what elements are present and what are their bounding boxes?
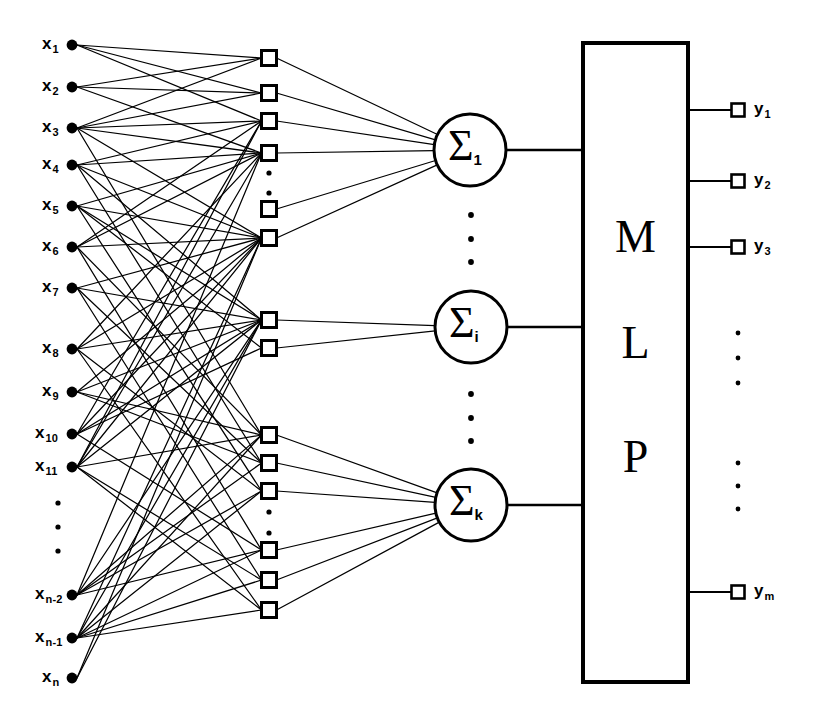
input-node-x11[interactable]	[67, 462, 78, 473]
hidden-node-7[interactable]	[262, 313, 277, 328]
hidden-node-13[interactable]	[262, 573, 277, 588]
connection-line	[77, 121, 262, 434]
input-node-x3[interactable]	[67, 123, 78, 134]
connection-line	[277, 435, 438, 493]
input-label-x2: x2	[42, 77, 59, 97]
mlp-letter-p: P	[606, 434, 666, 480]
connection-line	[77, 491, 262, 638]
summation-label-1: Σ1	[448, 124, 482, 168]
neural-network-diagram: x1x2x3x4x5x6x7x8x9x10x11xn-2xn-1xnΣ1ΣiΣk…	[0, 0, 823, 723]
summation-label-k: Σk	[449, 479, 483, 523]
output-node-ym[interactable]	[732, 586, 745, 599]
connection-line	[77, 320, 262, 434]
hidden-node-5[interactable]	[262, 202, 277, 217]
connection-line	[77, 206, 262, 491]
input-label-x6-subscript: 6	[51, 245, 58, 257]
input-node-xn[interactable]	[67, 673, 78, 684]
summation-ellipsis-dot	[468, 438, 474, 444]
connection-line	[77, 320, 262, 638]
hidden-ellipsis-dot	[266, 509, 271, 514]
network-graphics	[0, 0, 823, 723]
connection-line	[277, 518, 438, 580]
connection-line	[277, 522, 440, 610]
input-node-x2[interactable]	[67, 82, 78, 93]
sigma-icon: Σ	[449, 476, 475, 525]
summation-label-i: Σi	[449, 301, 479, 345]
sigma-icon: Σ	[449, 298, 475, 347]
hidden-node-6[interactable]	[262, 231, 277, 246]
hidden-node-9[interactable]	[262, 428, 277, 443]
input-label-x3-subscript: 3	[51, 126, 58, 138]
output-ellipsis-dot	[736, 381, 741, 386]
input-label-x10: x10	[35, 424, 58, 444]
input-node-x10[interactable]	[67, 429, 78, 440]
output-label-y3: y3	[754, 237, 771, 257]
output-ellipsis-dot	[736, 356, 741, 361]
connection-line	[77, 121, 262, 128]
summation-subscript-1: 1	[474, 151, 482, 168]
input-label-x3: x3	[42, 118, 59, 138]
input-node-x8[interactable]	[67, 344, 78, 355]
input-label-x6: x6	[42, 237, 59, 257]
hidden-node-2[interactable]	[262, 86, 277, 101]
connection-line	[77, 320, 262, 349]
summation-ellipsis-dot	[468, 259, 474, 265]
hidden-ellipsis-dot	[266, 190, 271, 195]
input-label-xn-2: xn-2	[35, 585, 63, 605]
input-node-xn-2[interactable]	[67, 590, 78, 601]
output-node-y3[interactable]	[732, 241, 745, 254]
connection-line	[77, 392, 262, 463]
output-node-y1[interactable]	[732, 104, 745, 117]
input-label-x5: x5	[42, 196, 59, 216]
summation-subscript-k: k	[475, 506, 483, 523]
connection-line	[277, 58, 438, 135]
output-ellipsis-dot	[736, 461, 741, 466]
input-label-x8: x8	[42, 339, 59, 359]
connection-line	[77, 238, 262, 638]
input-ellipsis-dot	[55, 500, 60, 505]
mlp-letter-l: L	[606, 320, 666, 366]
connection-line	[77, 238, 262, 434]
input-node-xn-1[interactable]	[67, 633, 78, 644]
input-ellipsis-dot	[55, 524, 60, 529]
output-label-y2: y2	[754, 171, 771, 191]
hidden-node-4[interactable]	[262, 146, 277, 161]
hidden-node-8[interactable]	[262, 341, 277, 356]
summation-ellipsis-dot	[468, 415, 474, 421]
hidden-node-10[interactable]	[262, 456, 277, 471]
output-ellipsis-dot	[736, 331, 741, 336]
hidden-node-14[interactable]	[262, 603, 277, 618]
input-label-xn-1: xn-1	[35, 628, 63, 648]
hidden-node-3[interactable]	[262, 114, 277, 129]
input-node-x7[interactable]	[67, 283, 78, 294]
sigma-icon: Σ	[448, 121, 474, 170]
input-label-x9-subscript: 9	[51, 390, 58, 402]
hidden-node-1[interactable]	[262, 51, 277, 66]
input-label-x10-subscript: 10	[44, 432, 58, 444]
input-node-x6[interactable]	[67, 242, 78, 253]
input-node-x4[interactable]	[67, 160, 78, 171]
input-label-xn: xn	[42, 668, 59, 688]
input-label-x11-subscript: 11	[44, 465, 57, 477]
input-label-xn-subscript: n	[51, 676, 59, 688]
connection-line	[77, 87, 262, 93]
input-label-x1: x1	[42, 35, 59, 55]
hidden-ellipsis-dot	[266, 530, 271, 535]
input-node-x5[interactable]	[67, 201, 78, 212]
connection-line	[77, 247, 262, 435]
input-label-x8-subscript: 8	[51, 347, 58, 359]
mlp-letter-m: M	[606, 214, 666, 260]
input-ellipsis-dot	[55, 548, 60, 553]
hidden-node-12[interactable]	[262, 543, 277, 558]
output-label-y3-subscript: 3	[763, 245, 770, 257]
connection-line	[77, 320, 262, 467]
connection-line	[277, 513, 436, 550]
output-label-y2-subscript: 2	[763, 179, 770, 191]
input-node-x1[interactable]	[67, 40, 78, 51]
summation-subscript-i: i	[475, 328, 479, 345]
output-node-y2[interactable]	[732, 175, 745, 188]
input-label-x4-subscript: 4	[51, 163, 58, 175]
input-node-x9[interactable]	[67, 387, 78, 398]
hidden-node-11[interactable]	[262, 484, 277, 499]
input-label-xn-1-subscript: n-1	[44, 636, 62, 648]
